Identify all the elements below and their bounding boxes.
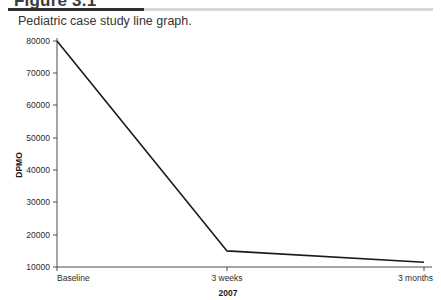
line-chart: 80000 70000 60000 50000 40000 30000 2000… bbox=[0, 0, 441, 300]
y-tick-label-80000: 80000 bbox=[26, 36, 50, 46]
data-series-line bbox=[57, 41, 424, 262]
y-tick-label-10000: 10000 bbox=[26, 262, 50, 272]
y-tick-label-30000: 30000 bbox=[26, 197, 50, 207]
x-tick-label-baseline: Baseline bbox=[57, 273, 90, 283]
x-tick-marks bbox=[57, 267, 424, 271]
y-tick-label-20000: 20000 bbox=[26, 230, 50, 240]
y-tick-label-70000: 70000 bbox=[26, 68, 50, 78]
x-tick-label-3-months: 3 months bbox=[398, 273, 433, 283]
chart-svg: 80000 70000 60000 50000 40000 30000 2000… bbox=[0, 0, 441, 300]
x-tick-label-3-weeks: 3 weeks bbox=[211, 273, 242, 283]
y-tick-label-50000: 50000 bbox=[26, 133, 50, 143]
y-tick-label-40000: 40000 bbox=[26, 165, 50, 175]
y-tick-label-60000: 60000 bbox=[26, 100, 50, 110]
x-axis-title: 2007 bbox=[219, 288, 238, 298]
y-tick-marks bbox=[53, 41, 57, 267]
y-axis-title: DPMO bbox=[14, 152, 24, 178]
